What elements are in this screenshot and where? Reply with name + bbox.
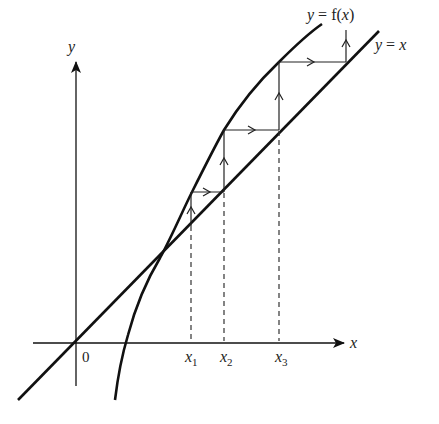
cobweb-steps xyxy=(191,30,346,226)
cobweb-diagram: y = f(x) y = x y x 0 x1 x2 x3 xyxy=(0,0,439,424)
x3-label: x3 xyxy=(274,348,288,368)
x2-label: x2 xyxy=(219,348,233,368)
curve-label: y = f(x) xyxy=(305,6,354,24)
origin-label: 0 xyxy=(82,349,90,365)
line-y-equals-x xyxy=(18,31,379,400)
x1-label: x1 xyxy=(184,348,198,368)
x-axis-label: x xyxy=(349,334,357,351)
direction-arrows xyxy=(187,40,350,214)
y-axis-label: y xyxy=(66,38,76,56)
dashed-projections xyxy=(191,131,279,341)
line-label: y = x xyxy=(373,36,406,54)
